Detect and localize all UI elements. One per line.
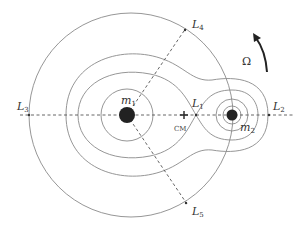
m2-label: m2 [240, 121, 255, 135]
m1-label: m1 [121, 94, 136, 108]
l5-point [185, 202, 187, 204]
mass-m2 [227, 110, 238, 121]
cm-label: CM [174, 125, 187, 133]
cm-marker-icon [180, 111, 188, 119]
l4-label: L4 [191, 18, 204, 32]
l5-label: L5 [191, 205, 204, 219]
mass-m1 [119, 107, 135, 123]
l2-point [268, 114, 270, 116]
roche-diagram: CM m1 m2 L1 L2 L3 L4 L5 Ω [0, 0, 305, 230]
l3-point [28, 114, 30, 116]
l3-label: L3 [16, 100, 29, 114]
omega-label: Ω [242, 55, 251, 68]
l1-label: L1 [191, 97, 204, 111]
l1-point [195, 114, 197, 116]
l2-label: L2 [272, 100, 285, 114]
l4-point [184, 29, 186, 31]
outer-lobe-contour [66, 54, 268, 176]
rotation-arrow-icon [256, 38, 267, 72]
